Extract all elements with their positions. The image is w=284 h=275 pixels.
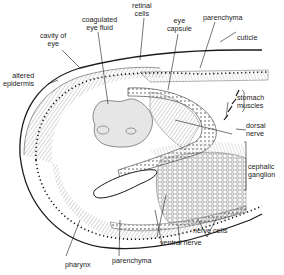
retinal-cells: [150, 92, 200, 150]
label-eye-capsule: eye capsule: [167, 17, 192, 33]
label-line: nerve cells: [193, 227, 227, 235]
label-line: muscles: [237, 102, 264, 110]
label-retinal-cells: retinal cells: [132, 2, 152, 18]
label-line: ventral nerve: [160, 239, 202, 247]
label-line: nerve: [246, 130, 266, 138]
label-ventral-nerve: ventral nerve: [160, 239, 202, 247]
label-line: parenchyma: [112, 257, 152, 265]
label-parenchyma-top: parenchyma: [203, 14, 243, 22]
label-line: eye fluid: [82, 24, 117, 32]
label-line: epidermis: [3, 80, 34, 88]
label-line: eye: [40, 40, 66, 48]
label-cephalic-ganglion: cephalic ganglion: [248, 163, 275, 179]
label-line: pharynx: [65, 261, 91, 269]
label-stomach-muscles: stomach muscles: [237, 94, 264, 110]
label-line: parenchyma: [203, 14, 243, 22]
label-cavity-of-eye: cavity of eye: [40, 32, 66, 48]
label-line: capsule: [167, 25, 192, 33]
label-dorsal-nerve: dorsal nerve: [246, 122, 266, 138]
label-line: cells: [132, 10, 152, 18]
label-altered-epidermis: altered epidermis: [3, 72, 34, 88]
label-pharynx: pharynx: [65, 261, 91, 269]
label-nerve-cells: nerve cells: [193, 227, 227, 235]
anatomy-diagram: cavity of eye coagulated eye fluid retin…: [0, 0, 284, 275]
label-coagulated-eye-fluid: coagulated eye fluid: [82, 16, 117, 32]
label-parenchyma-bottom: parenchyma: [112, 257, 152, 265]
coagulated-eye-fluid: [93, 99, 153, 147]
label-line: ganglion: [248, 171, 275, 179]
label-line: cuticle: [237, 34, 257, 42]
label-cuticle: cuticle: [237, 34, 257, 42]
